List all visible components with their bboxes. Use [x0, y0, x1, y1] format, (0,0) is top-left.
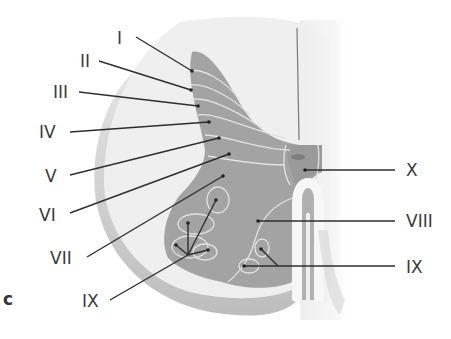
label-lamina-II: II — [80, 51, 90, 71]
label-lamina-X: X — [406, 160, 418, 180]
label-lamina-IX-right: IX — [406, 257, 423, 277]
spinal-cord-laminae-diagram: I II III IV V VI VII IX X VIII IX c — [0, 0, 451, 339]
label-lamina-III: III — [53, 82, 68, 102]
fissure-inner-light — [306, 213, 310, 300]
label-lamina-VI: VI — [39, 205, 56, 225]
label-lamina-V: V — [45, 166, 57, 186]
central-canal — [291, 154, 305, 160]
panel-label: c — [3, 289, 13, 309]
label-lamina-IV: IV — [39, 122, 56, 142]
label-lamina-VII: VII — [50, 248, 72, 268]
label-lamina-VIII: VIII — [406, 211, 433, 231]
label-lamina-IX-left: IX — [82, 291, 99, 311]
label-lamina-I: I — [117, 28, 122, 48]
